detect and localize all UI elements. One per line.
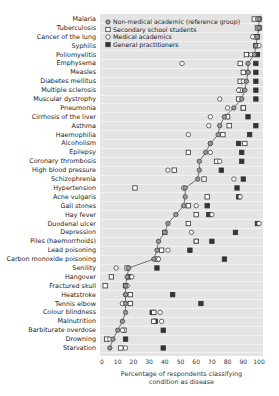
data-point [257, 17, 261, 21]
data-point [218, 97, 222, 101]
data-point [241, 70, 245, 74]
open-square-icon [106, 27, 110, 31]
data-point [238, 61, 242, 65]
data-point [225, 106, 229, 110]
legend-item: Non-medical academic (reference group) [113, 18, 240, 26]
data-point [254, 79, 258, 83]
data-point [254, 97, 258, 101]
data-point [254, 61, 258, 65]
data-point [210, 212, 214, 216]
data-point [128, 292, 132, 296]
data-point [246, 70, 250, 74]
data-point [197, 168, 201, 172]
legend-item: Secondary school students [113, 26, 196, 34]
data-markers [0, 0, 279, 396]
data-point [186, 204, 190, 208]
data-point [108, 346, 112, 350]
data-point [123, 284, 127, 288]
data-point [120, 319, 124, 323]
data-point [123, 310, 127, 314]
data-point [123, 346, 127, 350]
data-point [152, 257, 156, 261]
data-point [120, 328, 124, 332]
data-point [257, 221, 261, 225]
data-point [109, 275, 113, 279]
data-point [119, 346, 123, 350]
data-point [254, 88, 258, 92]
data-point [232, 177, 236, 181]
data-point [240, 159, 244, 163]
data-point [103, 284, 107, 288]
data-point [221, 132, 225, 136]
data-point [208, 115, 212, 119]
data-point [156, 257, 160, 261]
data-point [196, 177, 200, 181]
data-point [180, 61, 184, 65]
data-point [186, 150, 190, 154]
data-point [216, 132, 220, 136]
data-point [244, 52, 248, 56]
data-point [246, 115, 250, 119]
data-point [199, 301, 203, 305]
data-point [222, 257, 226, 261]
data-point [189, 230, 193, 234]
data-point [227, 124, 231, 128]
data-point [125, 275, 129, 279]
data-point [252, 52, 256, 56]
data-point [243, 88, 247, 92]
data-point [170, 292, 174, 296]
data-point [186, 132, 190, 136]
data-point [238, 195, 242, 199]
data-point [183, 186, 187, 190]
data-point [254, 124, 258, 128]
data-point [235, 186, 239, 190]
data-point [219, 168, 223, 172]
data-point [158, 310, 162, 314]
data-point [203, 150, 207, 154]
data-point [240, 97, 244, 101]
data-point [240, 150, 244, 154]
data-point [161, 328, 165, 332]
data-point [202, 177, 206, 181]
data-point [241, 177, 245, 181]
data-point [128, 301, 132, 305]
data-point [241, 106, 245, 110]
data-point [126, 266, 130, 270]
legend-item: General practitioners [113, 41, 179, 49]
data-point [156, 239, 160, 243]
circle-dot-icon [106, 20, 110, 24]
data-point [194, 212, 198, 216]
data-point [255, 35, 259, 39]
data-point [194, 204, 198, 208]
data-point [123, 292, 127, 296]
x-axis-label-line2: condition as disease [100, 378, 263, 386]
data-point [161, 346, 165, 350]
data-point [222, 115, 226, 119]
data-point [194, 239, 198, 243]
data-point [205, 195, 209, 199]
data-point [186, 221, 190, 225]
data-point [123, 337, 127, 341]
data-point [123, 301, 127, 305]
data-point [254, 70, 258, 74]
data-point [174, 212, 178, 216]
data-point [207, 124, 211, 128]
data-point [152, 319, 156, 323]
data-point [155, 266, 159, 270]
data-point [218, 124, 222, 128]
data-point [254, 43, 258, 47]
data-point [114, 266, 118, 270]
data-point [210, 239, 214, 243]
data-point [133, 186, 137, 190]
data-point [247, 132, 251, 136]
data-point [208, 141, 212, 145]
data-point [233, 230, 237, 234]
data-point [152, 310, 156, 314]
legend-item: Medical academics [113, 33, 172, 41]
data-point [188, 248, 192, 252]
data-point [257, 26, 261, 30]
data-point [246, 61, 250, 65]
data-point [208, 150, 212, 154]
data-point [166, 168, 170, 172]
data-point [181, 204, 185, 208]
